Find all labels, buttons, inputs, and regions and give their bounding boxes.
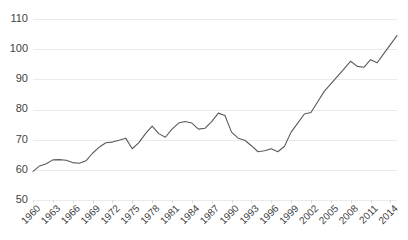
gridlines [33, 20, 397, 201]
x-tick-label: 1963 [39, 202, 63, 226]
x-tick-label: 1975 [118, 202, 142, 226]
x-tick-label: 1969 [78, 202, 102, 226]
x-tick-label: 2014 [376, 202, 400, 226]
x-tick-label: 2011 [357, 202, 380, 225]
x-tick-label: 1987 [198, 202, 222, 226]
x-tick-label: 1999 [277, 202, 301, 226]
y-tick-label: 70 [16, 133, 28, 145]
x-tick-label: 1996 [257, 202, 281, 226]
data-series-line [33, 36, 397, 172]
x-tick-label: 2002 [297, 202, 321, 226]
y-tick-label: 110 [10, 12, 28, 24]
y-tick-label: 100 [10, 42, 28, 54]
y-axis-labels: 1101009080706050 [10, 12, 28, 205]
x-tick-label: 1990 [217, 202, 241, 226]
x-tick-label: 2005 [317, 202, 341, 226]
x-tick-label: 1960 [19, 202, 43, 226]
x-tick-label: 1984 [178, 202, 202, 226]
x-tick-label: 1978 [138, 202, 162, 226]
y-tick-label: 80 [16, 102, 28, 114]
x-tick-label: 1981 [158, 202, 182, 226]
y-tick-label: 60 [16, 163, 28, 175]
x-axis-labels: 1960196319661969197219751978198119841987… [19, 202, 400, 226]
x-tick-label: 1966 [59, 202, 83, 226]
y-tick-label: 50 [16, 193, 28, 205]
line-chart: 1101009080706050196019631966196919721975… [0, 0, 408, 240]
chart-plot-area: 1101009080706050196019631966196919721975… [0, 0, 408, 240]
x-tick-label: 1993 [237, 202, 261, 226]
x-tick-label: 2008 [337, 202, 361, 226]
y-tick-label: 90 [16, 72, 28, 84]
x-tick-label: 1972 [98, 202, 122, 226]
